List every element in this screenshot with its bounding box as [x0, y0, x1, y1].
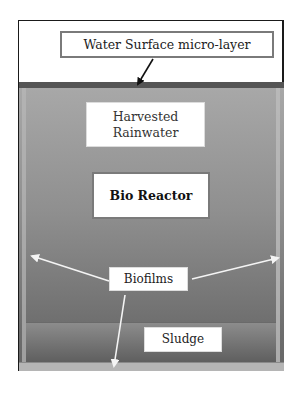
surface-microlayer-label: Water Surface micro-layer — [60, 31, 274, 58]
harvested-rainwater-label: Harvested Rainwater — [86, 102, 205, 147]
water-surface-line — [19, 82, 284, 88]
tank-left-wall — [22, 88, 26, 362]
bioreactor-text: Bio Reactor — [110, 188, 193, 204]
biofilms-label: Biofilms — [109, 267, 188, 291]
biofilms-text: Biofilms — [124, 272, 173, 287]
surface-microlayer-text: Water Surface micro-layer — [83, 37, 250, 53]
rainwater-line-1: Harvested — [113, 109, 179, 125]
tank-right-wall — [276, 88, 280, 362]
sludge-label: Sludge — [144, 327, 222, 352]
bioreactor-label: Bio Reactor — [92, 172, 210, 219]
rainwater-line-2: Rainwater — [113, 125, 179, 141]
tank-floor — [19, 362, 284, 371]
sludge-text: Sludge — [162, 332, 204, 347]
